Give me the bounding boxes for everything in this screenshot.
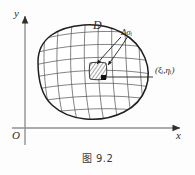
y-axis-label: y (14, 8, 19, 19)
subregion-label: Δσᵢ (121, 28, 132, 37)
figure-caption: 图 9.2 (0, 150, 195, 165)
origin-label: O (12, 130, 20, 141)
figure-container: y x O D Δσᵢ (ξᵢ,ηᵢ) 图 9.2 (0, 0, 195, 175)
sample-point-marker (101, 75, 106, 80)
x-axis-label: x (176, 130, 181, 141)
sample-point-label: (ξᵢ,ηᵢ) (155, 66, 174, 75)
region-label: D (93, 19, 102, 31)
